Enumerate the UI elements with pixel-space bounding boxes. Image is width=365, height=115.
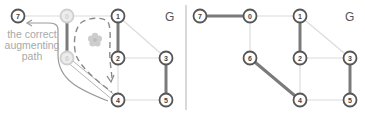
node-1: 1 — [112, 10, 125, 23]
node-label: 4 — [298, 97, 302, 104]
node-2: 2 — [294, 52, 307, 65]
node-label: 3 — [348, 55, 352, 62]
node-label: 3 — [164, 55, 168, 62]
blossom-arrowhead — [107, 75, 114, 82]
node-6: 6 — [244, 52, 257, 65]
blossom-dashed-path — [74, 18, 112, 92]
right-graph-title: G — [345, 10, 354, 24]
node-4: 4 — [112, 94, 125, 107]
node-label: 7 — [16, 13, 20, 20]
edge-6-4-shadow — [66, 61, 114, 101]
node-0: 0 — [61, 10, 74, 23]
node-label: 5 — [164, 97, 168, 104]
node-4: 4 — [294, 94, 307, 107]
node-0: 0 — [244, 10, 257, 23]
node-label: 5 — [348, 97, 352, 104]
node-label: 2 — [116, 55, 120, 62]
edge-1-3 — [300, 16, 350, 58]
node-label: 4 — [116, 97, 120, 104]
node-label: 1 — [116, 13, 120, 20]
right-graph — [200, 16, 350, 100]
left-graph-title: G — [165, 10, 174, 24]
node-label: 2 — [298, 55, 302, 62]
matched-edge-6-4 — [250, 58, 300, 100]
node-label: 0 — [65, 13, 69, 20]
node-7: 7 — [194, 10, 207, 23]
node-1: 1 — [294, 10, 307, 23]
node-label: 6 — [65, 55, 69, 62]
annotation-line-3: path — [2, 51, 62, 62]
node-6: 6 — [61, 52, 74, 65]
flower-icon — [88, 33, 102, 47]
node-5: 5 — [160, 94, 173, 107]
node-label: 6 — [248, 55, 252, 62]
node-5: 5 — [344, 94, 357, 107]
edge-1-3 — [118, 16, 166, 58]
node-label: 7 — [198, 13, 202, 20]
node-3: 3 — [160, 52, 173, 65]
node-label: 0 — [248, 13, 252, 20]
node-label: 1 — [298, 13, 302, 20]
node-2: 2 — [112, 52, 125, 65]
node-7: 7 — [12, 10, 25, 23]
augmenting-path-annotation: the correct augmenting path — [2, 29, 62, 62]
node-3: 3 — [344, 52, 357, 65]
